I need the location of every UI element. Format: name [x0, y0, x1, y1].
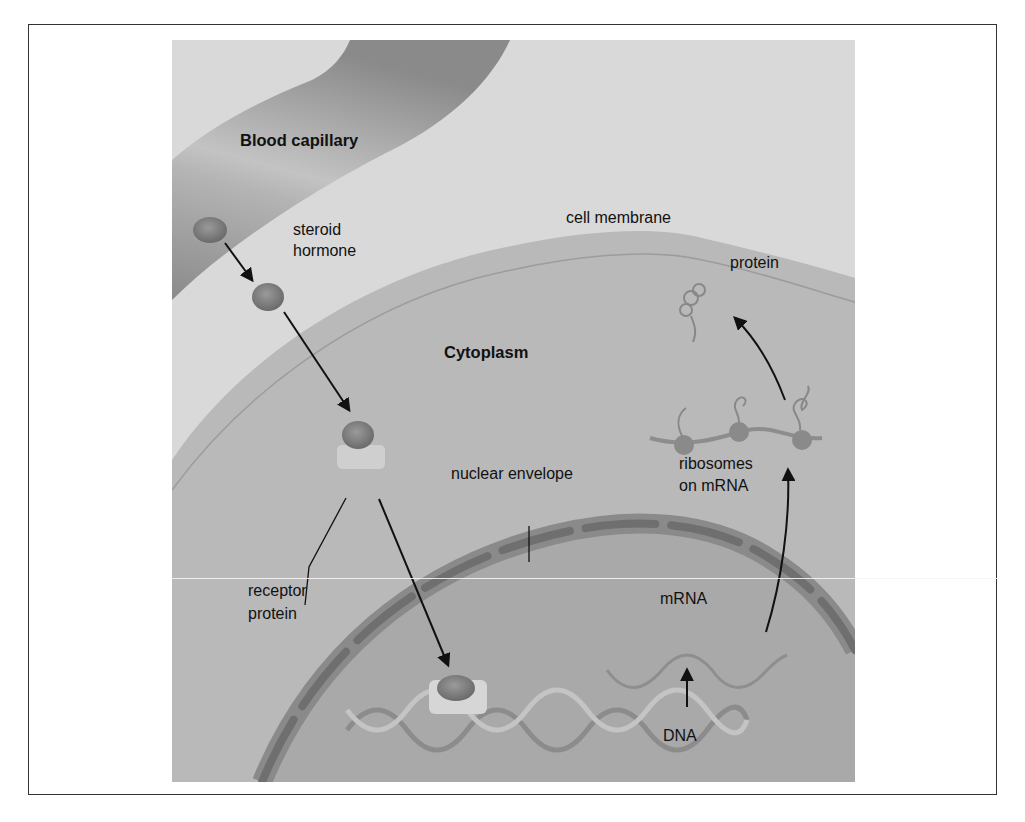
label-mrna: mRNA	[660, 589, 707, 608]
steroid-hormone-free	[252, 283, 284, 311]
label-cytoplasm: Cytoplasm	[444, 343, 528, 362]
label-steroid: steroid	[293, 220, 341, 239]
hormone-receptor-complex-nucleus	[429, 675, 487, 714]
label-protein: protein	[730, 253, 779, 272]
label-blood-capillary: Blood capillary	[240, 131, 358, 150]
label-hormone: hormone	[293, 241, 356, 260]
label-receptor: receptor	[248, 581, 307, 600]
cell-illustration	[172, 40, 855, 782]
label-dna: DNA	[663, 726, 697, 745]
label-nuclear-envelope: nuclear envelope	[451, 464, 573, 483]
scan-seam	[172, 578, 997, 579]
label-receptor-protein: protein	[248, 604, 297, 623]
label-cell-membrane: cell membrane	[566, 208, 671, 227]
steroid-hormone-in-capillary	[193, 217, 227, 243]
label-on-mrna: on mRNA	[679, 476, 748, 495]
illustration-panel	[172, 40, 855, 782]
label-ribosomes: ribosomes	[679, 454, 753, 473]
